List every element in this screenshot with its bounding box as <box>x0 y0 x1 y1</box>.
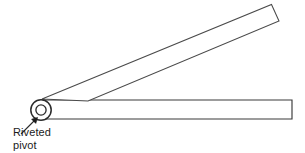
annotation-line-2: pivot <box>13 139 51 152</box>
pivot-rivet <box>31 100 51 120</box>
upper-arm-outline <box>42 5 279 102</box>
rivet-inner-circle <box>36 105 46 115</box>
annotation-line-1: Riveted <box>13 126 51 139</box>
riveted-pivot-annotation: Riveted pivot <box>13 126 51 151</box>
riveted-pivot-diagram: Riveted pivot <box>0 0 305 153</box>
upper-arm <box>42 5 279 102</box>
lower-arm-outline <box>41 100 292 119</box>
lower-arm <box>41 100 292 119</box>
